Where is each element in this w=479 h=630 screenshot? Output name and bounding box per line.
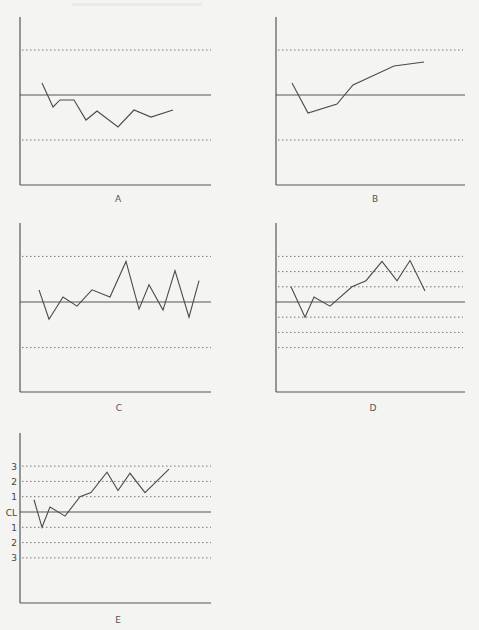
data-series-line <box>292 62 424 113</box>
y-tick-label: CL <box>6 508 17 518</box>
data-series-line <box>291 261 425 318</box>
panel-label-a: A <box>115 194 122 204</box>
panel-label-c: C <box>116 403 122 413</box>
chart-panel-d: D <box>276 223 465 413</box>
page-header-smudge <box>72 3 202 6</box>
chart-panel-a: A <box>20 17 211 204</box>
y-tick-label: 1 <box>11 492 17 502</box>
data-series-line <box>34 469 169 527</box>
panel-label-d: D <box>370 403 377 413</box>
chart-panel-b: B <box>276 17 465 204</box>
y-tick-label: 3 <box>11 462 17 472</box>
y-tick-label: 3 <box>11 553 17 563</box>
y-tick-label: 1 <box>11 523 17 533</box>
panel-label-b: B <box>372 194 378 204</box>
data-series-line <box>39 261 199 319</box>
data-series-line <box>42 83 173 127</box>
panel-label-e: E <box>115 615 121 625</box>
chart-panel-c: C <box>20 223 211 413</box>
y-tick-label: 2 <box>11 477 17 487</box>
y-tick-label: 2 <box>11 538 17 548</box>
chart-panel-e: 321CL123E <box>6 433 211 625</box>
control-charts-figure: ABCD321CL123E <box>0 0 479 630</box>
